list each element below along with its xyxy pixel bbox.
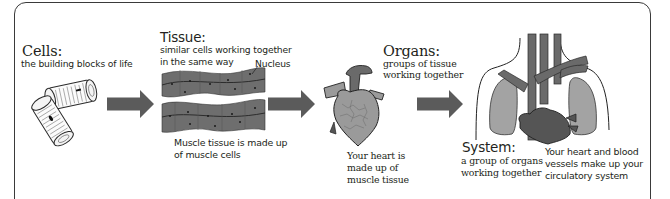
- tissue-note-line-1: Muscle tissue is made up: [174, 137, 287, 150]
- heart-icon: [322, 64, 392, 146]
- arrow-right-icon: [107, 90, 155, 118]
- organs-note-line-1: Your heart is: [347, 150, 405, 163]
- organs-note-line-2: made up of: [347, 162, 398, 175]
- arrow-right-icon: [417, 90, 465, 118]
- arrow-right-icon: [268, 90, 316, 118]
- organs-heading: Organs:: [383, 44, 440, 59]
- muscle-tissue-icon: [160, 62, 275, 137]
- organs-description-line-2: working together: [383, 69, 463, 81]
- system-note-line-2: vessels make up your: [545, 158, 643, 171]
- system-note-line-3: circulatory system: [545, 170, 628, 183]
- system-heading: System:: [462, 140, 516, 155]
- circulatory-system-icon: [468, 30, 618, 140]
- system-description-line-1: a group of organs: [461, 155, 543, 167]
- muscle-cells-icon: [30, 78, 105, 148]
- system-note-line-1: Your heart and blood: [545, 146, 639, 159]
- cells-heading: Cells:: [22, 44, 62, 59]
- organs-note-line-3: muscle tissue: [347, 174, 409, 187]
- tissue-description-line-1: similar cells working together: [160, 44, 292, 56]
- system-description-line-2: working together: [461, 167, 541, 179]
- cells-description: the building blocks of life: [21, 58, 133, 70]
- tissue-heading: Tissue:: [160, 30, 206, 45]
- tissue-note-line-2: of muscle cells: [174, 149, 241, 162]
